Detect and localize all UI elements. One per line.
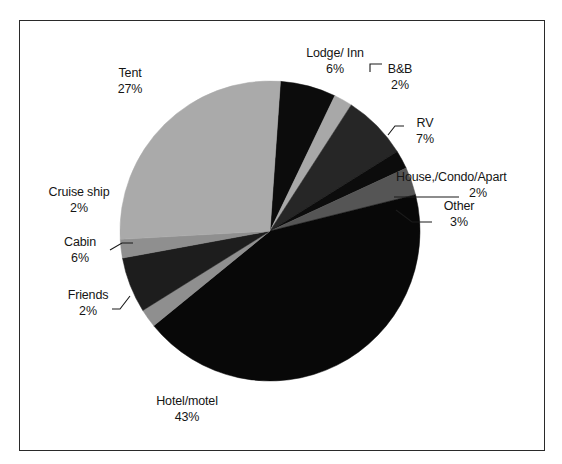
- pie-label-cabin-value: 6%: [48, 251, 112, 267]
- pie-label-tent: Tent 27%: [92, 66, 168, 97]
- pie-label-friends: Friends 2%: [52, 288, 124, 319]
- pie-label-hotel-motel-value: 43%: [128, 410, 246, 426]
- pie-label-lodge-inn-value: 6%: [288, 62, 382, 78]
- pie-label-house-condo-apart: House,/Condo/Apart 2%: [396, 170, 542, 201]
- pie-label-friends-name: Friends: [52, 288, 124, 304]
- pie-label-tent-value: 27%: [92, 82, 168, 98]
- pie-label-lodge-inn-name: Lodge/ Inn: [288, 46, 382, 62]
- pie-label-other-name: Other: [428, 199, 490, 215]
- pie-label-lodge-inn: Lodge/ Inn 6%: [288, 46, 382, 77]
- pie-label-friends-value: 2%: [52, 304, 124, 320]
- pie-label-hotel-motel: Hotel/motel 43%: [128, 394, 246, 425]
- pie-label-bandb-value: 2%: [372, 78, 428, 94]
- pie-label-hotel-motel-name: Hotel/motel: [128, 394, 246, 410]
- pie-label-house-condo-apart-name: House,/Condo/Apart: [396, 170, 542, 186]
- pie-label-cruise-ship: Cruise ship 2%: [32, 185, 126, 216]
- pie-label-bandb-name: B&B: [372, 62, 428, 78]
- pie-label-other-value: 3%: [428, 215, 490, 231]
- pie-label-bandb: B&B 2%: [372, 62, 428, 93]
- pie-label-cruise-ship-name: Cruise ship: [32, 185, 126, 201]
- pie-label-rv-value: 7%: [400, 132, 450, 148]
- pie-label-rv: RV 7%: [400, 116, 450, 147]
- pie-label-cabin-name: Cabin: [48, 235, 112, 251]
- pie-label-other: Other 3%: [428, 199, 490, 230]
- pie-label-cruise-ship-value: 2%: [32, 201, 126, 217]
- pie-label-tent-name: Tent: [92, 66, 168, 82]
- pie-label-cabin: Cabin 6%: [48, 235, 112, 266]
- pie-label-rv-name: RV: [400, 116, 450, 132]
- chart-screenshot: Tent 27% Lodge/ Inn 6% B&B 2% RV 7% Hous…: [0, 0, 562, 464]
